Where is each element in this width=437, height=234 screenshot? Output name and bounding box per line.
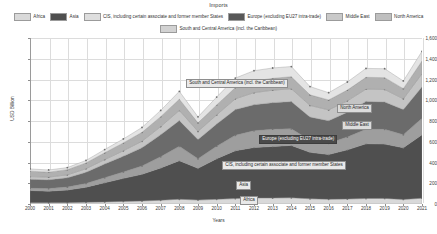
data-point-marker	[122, 138, 124, 140]
data-point-marker	[178, 90, 180, 92]
y-axis-tick-label: 600	[411, 139, 437, 144]
legend-label: CIS, including certain associate and for…	[103, 15, 223, 20]
y-axis-tick-label: 800	[411, 119, 437, 124]
x-axis-tick-label: 2018	[361, 206, 371, 211]
x-axis-tick-label: 2005	[118, 206, 128, 211]
x-axis-tick-mark	[86, 204, 87, 206]
x-axis-tick-mark	[142, 204, 143, 206]
chart-legend-row-2: South and Central America (incl. the Car…	[0, 25, 437, 33]
data-point-marker	[421, 50, 422, 52]
annotation-africa: Africa	[240, 196, 258, 205]
legend-swatch-icon	[50, 13, 67, 21]
data-point-marker	[346, 81, 348, 83]
legend-item[interactable]: Africa	[14, 13, 45, 21]
y-axis-tick-mark	[28, 163, 30, 164]
y-axis-title: USD Billion	[10, 69, 15, 149]
y-axis-tick-label: 1,000	[411, 98, 437, 103]
annotation-europe: Europe (excluding EU27 intra-trade)	[259, 135, 337, 144]
x-axis-tick-mark	[235, 204, 236, 206]
data-point-marker	[216, 96, 218, 98]
x-axis-tick-label: 2019	[380, 206, 390, 211]
y-axis-tick-mark	[28, 121, 30, 122]
annotation-south-central-america: South and Central America (incl. the Car…	[186, 79, 288, 88]
x-axis-tick-mark	[161, 204, 162, 206]
x-axis-tick-mark	[67, 204, 68, 206]
x-axis-tick-mark	[347, 204, 348, 206]
legend-item[interactable]: Asia	[50, 13, 78, 21]
x-axis-tick-label: 2010	[212, 206, 222, 211]
legend-label: North America	[394, 15, 423, 20]
x-axis-tick-label: 2011	[230, 206, 240, 211]
y-axis-tick-mark	[28, 100, 30, 101]
x-axis-tick-label: 2015	[305, 206, 315, 211]
x-axis-tick-mark	[366, 204, 367, 206]
data-point-marker	[402, 80, 404, 82]
x-axis-tick-label: 2003	[81, 206, 91, 211]
x-axis-tick-mark	[422, 204, 423, 206]
x-axis-tick-label: 2000	[25, 206, 35, 211]
x-axis-tick-mark	[329, 204, 330, 206]
legend-item[interactable]: South and Central America (incl. the Car…	[160, 25, 277, 33]
x-axis-tick-label: 2017	[342, 206, 352, 211]
legend-item[interactable]: Europe (excluding EU27 intra-trade)	[228, 13, 321, 21]
x-axis-tick-label: 2021	[417, 206, 427, 211]
x-axis-tick-label: 2014	[286, 206, 296, 211]
y-axis-tick-label: 1,200	[411, 77, 437, 82]
x-axis-tick-mark	[310, 204, 311, 206]
legend-item[interactable]: Middle East	[326, 13, 370, 21]
x-axis-tick-mark	[273, 204, 274, 206]
x-axis-tick-label: 2002	[62, 206, 72, 211]
legend-label: South and Central America (incl. the Car…	[179, 27, 277, 32]
data-point-marker	[141, 127, 143, 129]
legend-label: Africa	[33, 15, 45, 20]
x-axis-tick-mark	[179, 204, 180, 206]
x-axis-tick-mark	[30, 204, 31, 206]
chart-legend-row-1: AfricaAsiaCIS, including certain associa…	[0, 13, 437, 21]
x-axis-tick-mark	[403, 204, 404, 206]
data-point-marker	[85, 160, 87, 162]
x-axis-tick-label: 2006	[137, 206, 147, 211]
legend-swatch-icon	[84, 13, 101, 21]
y-axis-tick-mark	[28, 80, 30, 81]
data-point-marker	[290, 66, 292, 68]
legend-label: Europe (excluding EU27 intra-trade)	[248, 15, 322, 20]
data-point-marker	[365, 68, 367, 70]
data-point-marker	[384, 68, 386, 70]
legend-label: Asia	[70, 15, 79, 20]
y-axis-tick-mark	[28, 59, 30, 60]
data-point-marker	[66, 167, 68, 169]
annotation-asia: Asia	[236, 181, 251, 190]
y-axis-tick-label: 400	[411, 160, 437, 165]
data-point-marker	[48, 169, 50, 171]
x-axis-tick-mark	[254, 204, 255, 206]
x-axis-tick-mark	[123, 204, 124, 206]
x-axis-tick-mark	[49, 204, 50, 206]
data-point-marker	[328, 92, 330, 94]
x-axis-tick-label: 2009	[193, 206, 203, 211]
data-point-marker	[253, 70, 255, 72]
y-axis-tick-label: 200	[411, 181, 437, 186]
data-point-marker	[160, 110, 162, 112]
x-axis-tick-label: 2008	[174, 206, 184, 211]
data-point-marker	[309, 86, 311, 88]
y-axis-tick-mark	[28, 38, 30, 39]
y-axis-tick-mark	[28, 142, 30, 143]
x-axis-title: Years	[0, 218, 437, 223]
legend-swatch-icon	[326, 13, 343, 21]
legend-swatch-icon	[375, 13, 392, 21]
annotation-middle-east: Middle East	[342, 121, 372, 130]
x-axis-tick-label: 2016	[324, 206, 334, 211]
x-axis-tick-mark	[105, 204, 106, 206]
chart-root: Imports AfricaAsiaCIS, including certain…	[0, 0, 437, 234]
x-axis-tick-label: 2001	[44, 206, 54, 211]
legend-swatch-icon	[228, 13, 245, 21]
legend-item[interactable]: CIS, including certain associate and for…	[84, 13, 224, 21]
legend-item[interactable]: North America	[375, 13, 424, 21]
x-axis-tick-mark	[385, 204, 386, 206]
legend-swatch-icon	[14, 13, 31, 21]
data-point-marker	[104, 149, 106, 151]
x-axis-tick-mark	[217, 204, 218, 206]
page-title: Imports	[0, 2, 437, 8]
y-axis-tick-label: 1,600	[411, 36, 437, 41]
annotation-north-america: North America	[337, 104, 372, 113]
